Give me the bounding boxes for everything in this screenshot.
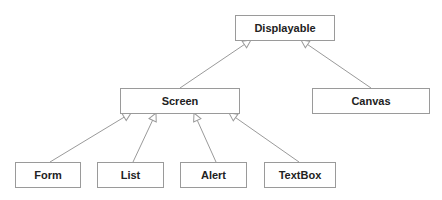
class-screen: Screen (120, 88, 240, 114)
class-label: Canvas (351, 95, 390, 107)
class-displayable: Displayable (235, 15, 335, 41)
edge-screen-displayable (180, 40, 251, 88)
edge-canvas-displayable (301, 40, 371, 88)
class-label: List (121, 169, 141, 181)
class-canvas: Canvas (312, 88, 430, 114)
class-list: List (97, 162, 164, 188)
class-alert: Alert (180, 162, 247, 188)
edge-textbox-screen (229, 113, 299, 162)
edge-form-screen (50, 113, 131, 162)
class-form: Form (15, 162, 81, 188)
class-label: Alert (201, 169, 226, 181)
class-label: Displayable (254, 22, 315, 34)
class-label: Screen (162, 95, 199, 107)
edge-alert-screen (194, 113, 216, 162)
class-label: Form (34, 169, 62, 181)
class-textbox: TextBox (264, 162, 336, 188)
edge-list-screen (133, 113, 156, 162)
class-label: TextBox (279, 169, 322, 181)
